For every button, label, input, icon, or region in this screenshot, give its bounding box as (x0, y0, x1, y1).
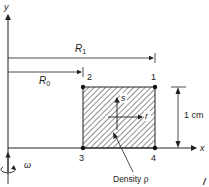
rotation-arrow-head (11, 165, 16, 170)
stray-mark: / (202, 177, 207, 187)
axisymmetric-element-diagram: y x R1 R0 1 cm 1 2 3 4 s r Density ρ ω / (0, 0, 209, 187)
height-arrow-top (176, 87, 181, 94)
x-axis-label: x (199, 143, 205, 153)
r1-label: R1 (75, 43, 86, 55)
node-2 (81, 85, 85, 89)
r0-label: R0 (39, 75, 50, 87)
node-3-label: 3 (79, 153, 84, 163)
s-label: s (121, 93, 126, 103)
node-3 (81, 146, 85, 150)
node-4-label: 4 (151, 153, 156, 163)
node-1 (153, 85, 157, 89)
node-1-label: 1 (151, 72, 156, 82)
height-arrow-bottom (176, 141, 181, 148)
node-4 (153, 146, 157, 150)
density-label: Density ρ (113, 174, 149, 184)
omega-label: ω (24, 160, 31, 170)
node-2-label: 2 (87, 72, 92, 82)
height-label: 1 cm (184, 110, 204, 120)
y-axis-label: y (3, 2, 9, 12)
